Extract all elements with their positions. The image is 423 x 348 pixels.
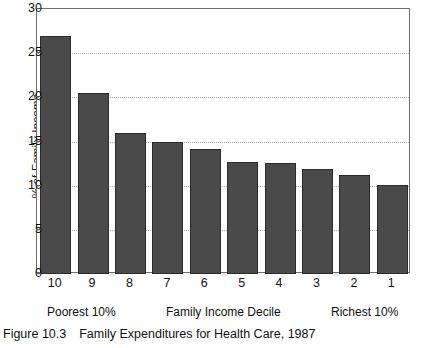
x-tick-label-7: 7	[148, 276, 185, 290]
figure-container: % of Family Income 051015202530 10987654…	[0, 0, 423, 348]
x-axis-title: Family Income Decile	[166, 305, 281, 319]
x-tick-label-5: 5	[223, 276, 260, 290]
figure-caption: Figure 10.3Family Expenditures for Healt…	[3, 327, 315, 341]
bar-decile-1	[377, 185, 408, 274]
annotation-poorest: Poorest 10%	[47, 305, 116, 319]
gridline-25	[37, 53, 409, 54]
bar-decile-2	[339, 175, 370, 274]
x-tick-label-3: 3	[298, 276, 335, 290]
bar-decile-6	[190, 149, 221, 274]
x-tick-label-10: 10	[36, 276, 73, 290]
y-tick-mark-15	[36, 141, 41, 142]
bar-decile-7	[152, 142, 183, 274]
y-tick-mark-20	[36, 96, 41, 97]
x-tick-label-8: 8	[111, 276, 148, 290]
y-tick-mark-25	[36, 52, 41, 53]
x-tick-label-2: 2	[335, 276, 372, 290]
annotation-richest: Richest 10%	[331, 305, 398, 319]
y-tick-mark-10	[36, 185, 41, 186]
figure-caption-text: Family Expenditures for Health Care, 198…	[79, 327, 315, 341]
x-tick-label-4: 4	[260, 276, 297, 290]
bar-decile-4	[265, 163, 296, 274]
bar-decile-9	[78, 93, 109, 274]
y-tick-mark-0	[36, 273, 41, 274]
plot-area	[36, 8, 410, 273]
x-tick-label-9: 9	[73, 276, 110, 290]
bar-decile-10	[40, 36, 71, 275]
bar-decile-5	[227, 162, 258, 274]
y-tick-mark-30	[36, 8, 41, 9]
bar-decile-3	[302, 169, 333, 274]
y-tick-mark-5	[36, 229, 41, 230]
x-tick-label-6: 6	[186, 276, 223, 290]
figure-number: Figure 10.3	[3, 327, 66, 341]
x-tick-label-1: 1	[373, 276, 410, 290]
bar-decile-8	[115, 133, 146, 274]
